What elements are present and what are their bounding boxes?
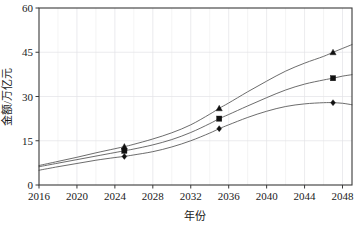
x-tick-label: 2036 bbox=[218, 190, 241, 202]
y-tick-label: 30 bbox=[22, 91, 34, 103]
x-tick-label: 2024 bbox=[104, 190, 127, 202]
y-tick-label: 15 bbox=[22, 135, 34, 147]
x-tick-label: 2032 bbox=[180, 190, 202, 202]
chart-container: 201620202024202820322036204020442048 015… bbox=[0, 0, 361, 225]
x-tick-label: 2020 bbox=[66, 190, 89, 202]
y-tick-label: 60 bbox=[22, 2, 34, 14]
marker-square bbox=[330, 76, 335, 81]
x-tick-label: 2028 bbox=[142, 190, 165, 202]
x-axis-title: 年份 bbox=[184, 209, 206, 222]
x-tick-label: 2048 bbox=[332, 190, 355, 202]
y-tick-label: 0 bbox=[28, 179, 34, 191]
marker-square bbox=[217, 116, 222, 121]
y-axis-title: 金额/万亿元 bbox=[0, 68, 13, 126]
x-axis-tick-labels: 201620202024202820322036204020442048 bbox=[28, 190, 354, 202]
line-chart: 201620202024202820322036204020442048 015… bbox=[0, 0, 361, 225]
marker-square bbox=[122, 148, 127, 153]
y-axis-tick-labels: 015304560 bbox=[22, 2, 34, 191]
y-tick-label: 45 bbox=[22, 46, 34, 58]
x-tick-label: 2040 bbox=[256, 190, 279, 202]
x-tick-label: 2044 bbox=[294, 190, 317, 202]
x-tick-label: 2016 bbox=[28, 190, 51, 202]
